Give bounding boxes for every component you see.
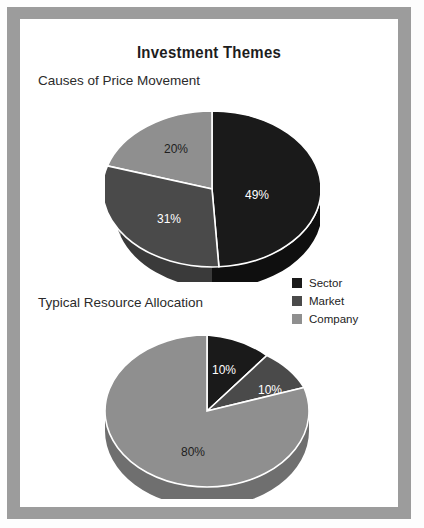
pie-one-label-company: 20% (164, 142, 188, 156)
pie-two-top-surface (105, 335, 309, 487)
picture-frame-border: Investment Themes Causes of Price Moveme… (7, 7, 411, 519)
pie-chart-causes-of-price-movement: 49% 31% 20% (105, 97, 320, 282)
legend-label-company: Company (309, 313, 358, 325)
section-label-typical-resource-allocation: Typical Resource Allocation (38, 295, 203, 310)
legend-swatch-sector-icon (292, 278, 302, 288)
pie-one-top-surface (105, 111, 320, 267)
pie-two-label-sector: 10% (212, 363, 236, 377)
legend-label-sector: Sector (309, 277, 342, 289)
pie-one-label-market: 31% (157, 212, 181, 226)
section-label-causes-of-price-movement: Causes of Price Movement (38, 73, 200, 88)
legend-label-market: Market (309, 295, 344, 307)
page-canvas: Investment Themes Causes of Price Moveme… (0, 0, 424, 528)
pie-two-label-company: 80% (181, 445, 205, 459)
pie-one-label-sector: 49% (245, 188, 269, 202)
slide-content-area: Investment Themes Causes of Price Moveme… (20, 19, 398, 507)
page-title: Investment Themes (43, 43, 376, 63)
legend-swatch-market-icon (292, 296, 302, 306)
pie-two-label-market: 10% (258, 383, 282, 397)
pie-chart-typical-resource-allocation: 10% 10% 80% (100, 319, 315, 499)
pie-two-slice-company (105, 335, 309, 487)
legend-item-market[interactable]: Market (292, 293, 392, 309)
legend-item-sector[interactable]: Sector (292, 275, 392, 291)
